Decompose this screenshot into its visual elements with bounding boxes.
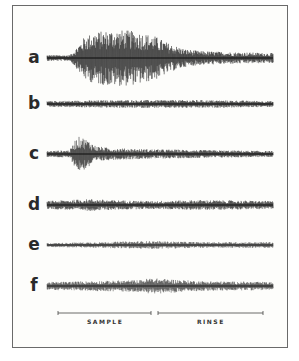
scale-label-sample: SAMPLE	[87, 318, 123, 325]
row-label-e: e	[27, 236, 41, 253]
trace-group	[47, 31, 273, 294]
row-label-a: a	[27, 49, 41, 66]
scale-bars	[58, 311, 263, 315]
row-label-d: d	[27, 196, 41, 213]
row-label-f: f	[27, 277, 41, 294]
scale-label-rinse: RINSE	[197, 318, 225, 325]
row-label-c: c	[27, 145, 41, 162]
row-label-b: b	[27, 95, 41, 112]
waveform-traces	[0, 0, 299, 361]
